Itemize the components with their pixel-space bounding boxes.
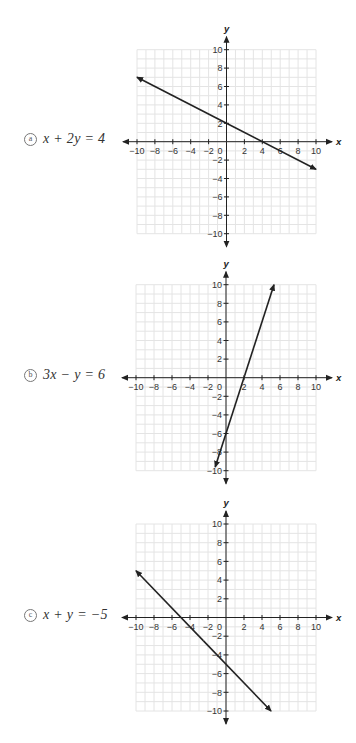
y-tick-label: −8: [212, 688, 222, 698]
x-tick-label: 4: [259, 382, 264, 392]
y-tick-label: 6: [217, 557, 222, 567]
y-tick-label: −2: [212, 631, 222, 641]
y-tick-label: −10: [207, 229, 222, 239]
x-tick-label: −10: [128, 382, 143, 392]
y-axis-label: y: [223, 497, 230, 508]
y-tick-label: 10: [212, 280, 222, 290]
y-tick-label: −6: [212, 669, 222, 679]
x-tick-label: −2: [203, 146, 213, 156]
y-tick-label: 8: [217, 299, 222, 309]
equation-label-c: c x + y = −5: [24, 607, 108, 623]
plotted-line: [245, 285, 274, 376]
x-axis-label: x: [335, 136, 342, 147]
x-tick-label: 2: [241, 622, 246, 632]
x-tick-label: 10: [311, 146, 321, 156]
x-tick-label: −4: [186, 146, 196, 156]
x-tick-label: −10: [129, 146, 144, 156]
x-tick-label: 6: [277, 622, 282, 632]
x-tick-label: 8: [295, 382, 300, 392]
x-axis-label: x: [335, 372, 342, 383]
x-tick-label: −2: [203, 382, 213, 392]
x-tick-label: 4: [260, 146, 265, 156]
y-axis-label: y: [223, 258, 230, 269]
y-tick-label: −2: [212, 392, 222, 402]
x-tick-label: −4: [185, 382, 195, 392]
circled-letter-a-icon: a: [24, 133, 37, 146]
y-tick-label: −4: [212, 410, 222, 420]
x-tick-label: −8: [149, 382, 159, 392]
y-tick-label: −10: [207, 466, 222, 476]
x-tick-label: −8: [150, 146, 160, 156]
x-tick-label: 6: [277, 382, 282, 392]
y-tick-label: −10: [207, 706, 222, 716]
y-tick-label: −4: [212, 174, 222, 184]
origin-label: 0: [217, 146, 222, 156]
x-axis-label: x: [335, 612, 342, 623]
circled-letter-b-icon: b: [24, 369, 37, 382]
graph-c: xy−10−8−6−4−2246810−10−8−6−4−22468100: [122, 497, 342, 724]
y-tick-label: −2: [212, 155, 222, 165]
x-tick-label: −8: [149, 622, 159, 632]
y-axis-label: y: [223, 23, 230, 34]
circled-letter-c-icon: c: [24, 609, 37, 622]
origin-label: 0: [217, 382, 222, 392]
x-tick-label: 10: [311, 622, 321, 632]
x-tick-label: −2: [203, 622, 213, 632]
x-tick-label: 8: [295, 622, 300, 632]
graph-b: xy−10−8−6−4−2246810−10−8−6−4−22468100: [122, 258, 342, 484]
equation-label-b: b 3x − y = 6: [24, 367, 105, 383]
x-tick-label: −10: [128, 622, 143, 632]
y-tick-label: −6: [212, 429, 222, 439]
y-tick-label: 10: [212, 45, 222, 55]
equation-text: x + y = −5: [43, 607, 108, 623]
y-tick-label: 2: [217, 594, 222, 604]
x-tick-label: 4: [259, 622, 264, 632]
y-tick-label: 6: [217, 317, 222, 327]
x-tick-label: −6: [168, 146, 178, 156]
x-tick-label: −6: [167, 622, 177, 632]
y-tick-label: 2: [217, 354, 222, 364]
x-tick-label: 8: [296, 146, 301, 156]
y-tick-label: 4: [217, 575, 222, 585]
y-tick-label: 6: [217, 82, 222, 92]
equation-text: x + 2y = 4: [43, 131, 105, 147]
y-tick-label: −6: [212, 192, 222, 202]
y-tick-label: 8: [217, 63, 222, 73]
origin-label: 0: [217, 622, 222, 632]
x-tick-label: −6: [167, 382, 177, 392]
y-tick-label: 4: [217, 336, 222, 346]
x-tick-label: 10: [311, 382, 321, 392]
graph-a: xy−10−8−6−4−2246810−10−8−6−4−22468100: [123, 23, 342, 247]
x-tick-label: 2: [242, 146, 247, 156]
y-tick-label: 10: [212, 519, 222, 529]
equation-text: 3x − y = 6: [43, 367, 105, 383]
y-tick-label: 8: [217, 538, 222, 548]
y-tick-label: 4: [217, 100, 222, 110]
equation-label-a: a x + 2y = 4: [24, 131, 105, 147]
y-tick-label: −8: [212, 211, 222, 221]
